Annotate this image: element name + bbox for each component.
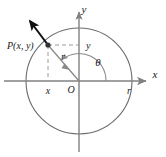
x-coordinate-label: x: [45, 85, 51, 96]
y-axis-label: y: [81, 3, 87, 15]
radius-axis-label: r: [127, 85, 131, 96]
diagram-canvas: P(x, y) y x y x r r θ O: [0, 0, 166, 157]
trig-circle-figure: P(x, y) y x y x r r θ O: [0, 0, 166, 157]
radius-segment-label: r: [61, 51, 65, 62]
point-p-label: P(x, y): [6, 40, 34, 52]
radius-direction-arrowhead: [62, 64, 71, 71]
y-coordinate-label: y: [85, 40, 91, 51]
angle-theta-label: θ: [95, 56, 101, 68]
point-p-marker: [45, 42, 50, 47]
x-axis-label: x: [152, 68, 158, 80]
origin-label: O: [67, 84, 74, 95]
